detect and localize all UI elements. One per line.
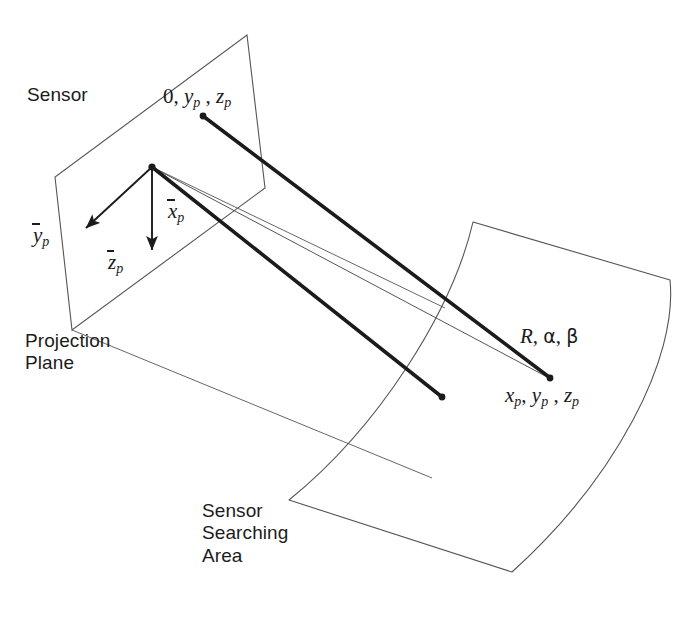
image-point-comma-2: , (200, 84, 211, 108)
target-point-dot (547, 375, 554, 382)
axis-xp-symbol: x (168, 198, 177, 224)
range-symbol-R: R (520, 324, 533, 348)
angle-symbol-alpha: α (543, 325, 556, 347)
projection-ray-thin (152, 167, 551, 379)
sensor-searching-area-shape (289, 222, 671, 572)
ray-end-dot (439, 394, 446, 401)
image-point-coordinates-label: 0, yp , zp (163, 84, 231, 112)
range-comma-2: , (556, 324, 561, 348)
image-point-y: y (184, 84, 193, 108)
ground-plane-lower-edge (72, 330, 432, 478)
axis-label-yp: yp (33, 222, 49, 251)
searching-area-label-line3: Area (202, 545, 288, 567)
target-z-subscript: p (572, 394, 579, 409)
image-point-dot (200, 113, 207, 120)
range-comma-1: , (533, 324, 538, 348)
projection-plane-shape (55, 35, 265, 330)
axis-label-xp: xp (168, 198, 184, 227)
angle-symbol-beta: β (566, 325, 578, 347)
diagram-canvas: Sensor Projection Plane Sensor Searching… (0, 0, 699, 634)
target-y: y (532, 383, 541, 407)
sensor-searching-area-label: Sensor Searching Area (202, 500, 288, 567)
target-comma-1: , (521, 383, 526, 407)
axis-zp-symbol: z (108, 249, 116, 275)
axis-yp-symbol: y (33, 222, 42, 248)
projection-plane-label-line2: Plane (25, 352, 111, 374)
searching-area-label-line1: Sensor (202, 500, 288, 522)
target-z: z (564, 383, 572, 407)
image-point-z-subscript: p (224, 95, 231, 110)
image-point-comma-1: , (174, 84, 179, 108)
searching-area-label-line2: Searching (202, 522, 288, 544)
sensor-label: Sensor (27, 84, 88, 106)
image-point-zero: 0 (163, 84, 174, 108)
axis-yp-arrow (86, 167, 152, 228)
diagram-vector-layer (0, 0, 699, 634)
range-angles-label: R, α, β (520, 324, 579, 349)
projection-plane-label-line1: Projection (25, 330, 111, 352)
axis-xp-ray-thick (152, 167, 442, 397)
target-comma-2: , (548, 383, 559, 407)
axis-label-zp: zp (108, 249, 123, 278)
axis-xp-subscript: p (177, 210, 184, 225)
axis-yp-subscript: p (42, 234, 49, 249)
axis-zp-subscript: p (116, 261, 123, 276)
target-point-coordinates-label: xp, yp , zp (505, 383, 579, 411)
projection-plane-label: Projection Plane (25, 330, 111, 375)
target-x: x (505, 383, 514, 407)
